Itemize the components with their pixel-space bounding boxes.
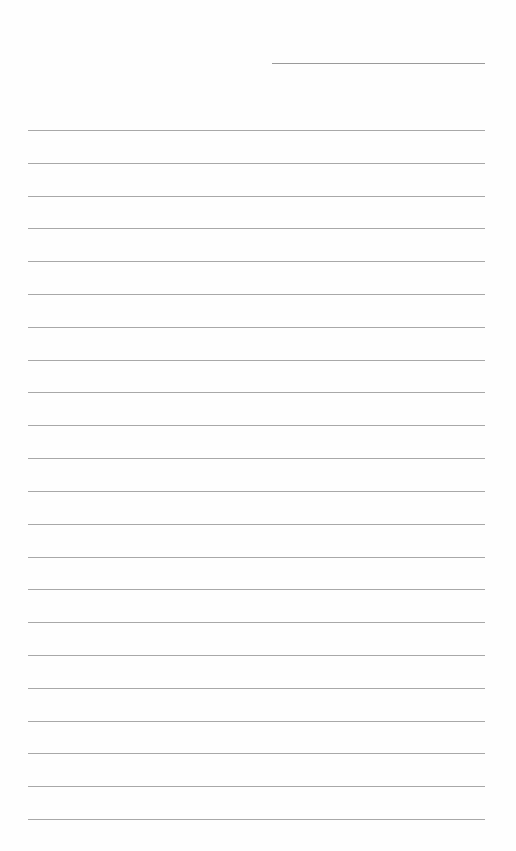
ruled-line: [28, 327, 485, 328]
ruled-line: [28, 228, 485, 229]
ruled-line: [28, 721, 485, 722]
ruled-line: [28, 163, 485, 164]
ruled-line: [28, 458, 485, 459]
ruled-line: [28, 425, 485, 426]
ruled-line: [28, 261, 485, 262]
ruled-line: [28, 622, 485, 623]
ruled-line: [28, 589, 485, 590]
ruled-line: [28, 294, 485, 295]
header-rule: [272, 63, 485, 64]
lined-page: [0, 0, 516, 851]
ruled-line: [28, 392, 485, 393]
ruled-line: [28, 786, 485, 787]
ruled-line: [28, 196, 485, 197]
ruled-line: [28, 130, 485, 131]
ruled-line: [28, 524, 485, 525]
ruled-line: [28, 557, 485, 558]
ruled-line: [28, 819, 485, 820]
ruled-line: [28, 360, 485, 361]
ruled-line: [28, 688, 485, 689]
ruled-line: [28, 655, 485, 656]
ruled-line: [28, 491, 485, 492]
ruled-line: [28, 753, 485, 754]
